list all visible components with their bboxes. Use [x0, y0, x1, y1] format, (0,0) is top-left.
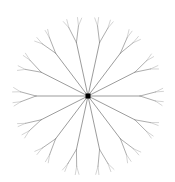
- root-node: [86, 94, 91, 99]
- figure-background: [0, 0, 175, 182]
- radial-tree-figure: [0, 0, 175, 182]
- root-node-layer: [86, 94, 91, 99]
- radial-tree-canvas: [0, 0, 175, 182]
